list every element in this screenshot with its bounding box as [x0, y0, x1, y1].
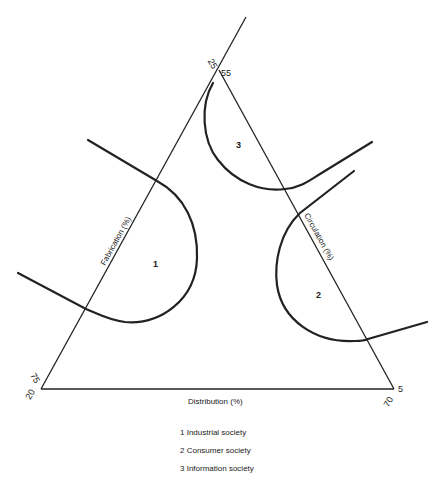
region-3-label: 3: [236, 140, 241, 150]
region-2-label: 2: [316, 290, 321, 300]
legend-item-information: 3 Information society: [180, 460, 254, 478]
legend-item-industrial: 1 Industrial society: [180, 424, 254, 442]
distribution-axis-label: Distribution (%): [188, 397, 243, 406]
circulation-axis-label: Circulation (%): [302, 212, 335, 263]
fabrication-axis-label: Fabrication (%): [99, 215, 133, 267]
region-1-boundary: [18, 140, 197, 322]
tick-bottom-left-upper: 75: [28, 371, 42, 385]
tick-bottom-left-lower: 20: [23, 388, 37, 402]
region-2-boundary: [276, 171, 427, 341]
tick-bottom-right-lower: 70: [382, 395, 396, 409]
ternary-diagram: 25 55 75 20 5 70 Fabrication (%) Circula…: [0, 0, 442, 479]
legend: 1 Industrial society 2 Consumer society …: [180, 424, 254, 478]
region-1-label: 1: [153, 259, 158, 269]
circulation-axis-line: [219, 70, 394, 389]
tick-apex-right: 55: [221, 68, 231, 78]
fabrication-axis-line: [41, 17, 246, 389]
region-3-boundary: [204, 83, 372, 190]
legend-item-consumer: 2 Consumer society: [180, 442, 254, 460]
tick-bottom-right-upper: 5: [398, 384, 403, 394]
